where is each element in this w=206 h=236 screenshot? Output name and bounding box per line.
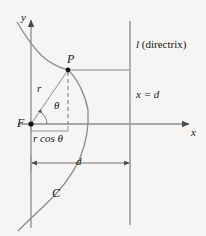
focal-radius-segment	[31, 70, 68, 124]
point-p-dot	[66, 68, 71, 73]
distance-d-label: d	[76, 156, 82, 167]
y-axis-label: y	[21, 12, 26, 23]
radius-label: r	[37, 83, 41, 94]
directrix-word: (directrix)	[142, 38, 187, 50]
focus-point-dot	[28, 121, 33, 126]
r-cos-theta-label: r cos θ	[33, 133, 63, 144]
rcos-theta-bracket	[31, 126, 68, 131]
directrix-equation-label: x = d	[136, 89, 159, 100]
focus-label: F	[17, 117, 24, 129]
curve-c-label: C	[52, 187, 60, 199]
x-axis-label: x	[191, 127, 196, 138]
theta-label: θ	[54, 100, 59, 111]
figure-container: y x F P r θ r cos θ d C l (directrix) x …	[0, 0, 206, 236]
conic-diagram-svg	[0, 0, 206, 236]
point-p-label: P	[67, 53, 74, 65]
theta-angle-arc	[42, 113, 47, 124]
directrix-label: l (directrix)	[136, 39, 186, 50]
directrix-letter: l	[136, 38, 139, 50]
